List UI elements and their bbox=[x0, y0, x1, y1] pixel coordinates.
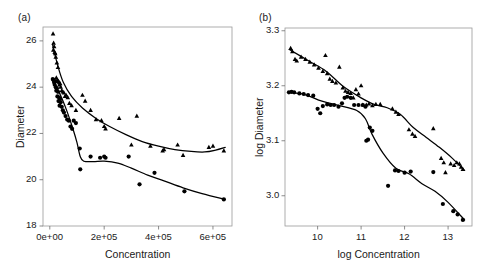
x-tick-label: 2e+05 bbox=[91, 231, 118, 242]
x-tick-label: 13 bbox=[443, 231, 454, 242]
x-tick-label: 4e+05 bbox=[145, 231, 172, 242]
y-tick-label: 20 bbox=[26, 173, 37, 184]
y-tick-label: 3.0 bbox=[266, 189, 279, 200]
y-tick-label: 22 bbox=[26, 126, 37, 137]
y-tick-label: 3.1 bbox=[266, 134, 279, 145]
chart-panel-a: (a) Concentration Diameter 0e+002e+054e+… bbox=[0, 0, 241, 270]
x-tick-label: 12 bbox=[399, 231, 410, 242]
x-tick-label: 11 bbox=[356, 231, 366, 242]
y-tick-label: 3.3 bbox=[266, 24, 279, 35]
y-axis-title-b: log Diameter bbox=[253, 97, 265, 157]
x-tick-label: 0e+00 bbox=[36, 231, 63, 242]
y-tick-label: 24 bbox=[26, 80, 37, 91]
chart-panel-b: (b) log Concentration log Diameter 10111… bbox=[241, 0, 482, 270]
y-tick-label: 26 bbox=[26, 34, 37, 45]
y-tick-label: 18 bbox=[26, 219, 37, 230]
x-tick-label: 6e+05 bbox=[199, 231, 226, 242]
figure-container: (a) Concentration Diameter 0e+002e+054e+… bbox=[0, 0, 482, 270]
y-tick-label: 3.2 bbox=[266, 79, 279, 90]
x-axis-title-a: Concentration bbox=[105, 248, 170, 260]
x-tick-label: 10 bbox=[312, 231, 323, 242]
y-axis-title-a: Diameter bbox=[14, 105, 26, 148]
x-axis-title-b: log Concentration bbox=[338, 248, 420, 260]
